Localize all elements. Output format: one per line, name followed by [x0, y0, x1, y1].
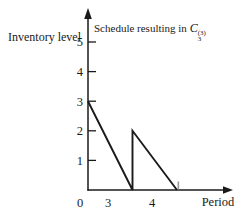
inventory-schedule-figure: 12345034Period Inventory level Schedule …	[0, 0, 242, 220]
cost-symbol-letter: C	[190, 21, 198, 35]
y-axis-arrow	[84, 8, 92, 19]
chart-title-text: Schedule resulting in	[94, 22, 190, 34]
y-tick-label: 1	[77, 154, 83, 168]
cost-symbol-subscript: 3	[198, 36, 202, 42]
y-tick-label: 3	[77, 95, 83, 109]
x-origin-label: 0	[77, 196, 83, 210]
x-axis-title: Period	[202, 195, 235, 209]
y-axis-title: Inventory level	[8, 30, 81, 45]
x-tick-label: 3	[105, 196, 111, 210]
x-tick-label: 4	[149, 196, 156, 210]
cost-symbol: C(3)3	[190, 21, 206, 35]
chart-title: Schedule resulting in C(3)3	[94, 21, 206, 42]
y-tick-label: 4	[77, 65, 84, 79]
inventory-level-line	[88, 101, 177, 190]
x-axis-arrow	[223, 186, 233, 194]
y-tick-label: 2	[77, 124, 83, 138]
